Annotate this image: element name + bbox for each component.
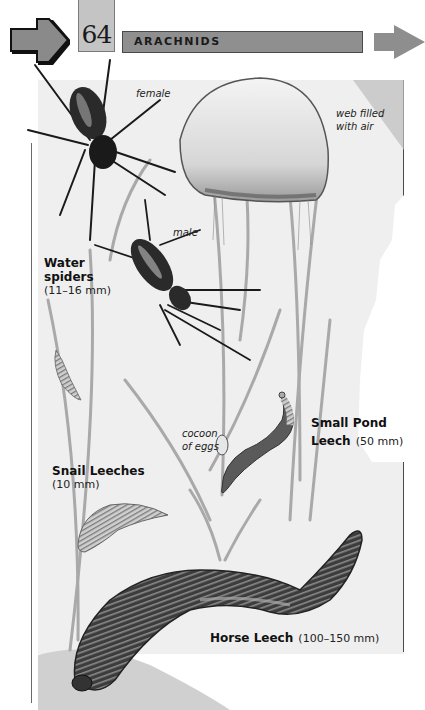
species-size: (11–16 mm) xyxy=(44,284,111,297)
species-small-pond-leech: Small Pond Leech (50 mm) xyxy=(311,416,403,449)
species-name: Snail Leeches xyxy=(52,464,145,478)
species-name: Leech xyxy=(311,434,351,448)
species-snail-leeches: Snail Leeches (10 mm) xyxy=(52,464,145,491)
label-web-line2: with air xyxy=(336,121,373,133)
species-name: Water xyxy=(44,256,111,270)
label-cocoon-line1: cocoon xyxy=(182,428,218,440)
label-cocoon-line2: of eggs xyxy=(182,441,219,453)
species-name: Horse Leech xyxy=(210,631,293,645)
species-name: Small Pond xyxy=(311,416,403,430)
label-female: female xyxy=(136,88,170,100)
species-size: (50 mm) xyxy=(356,435,404,448)
species-water-spiders: Water spiders (11–16 mm) xyxy=(44,256,111,297)
pond-life-illustration xyxy=(0,0,425,710)
species-size: (10 mm) xyxy=(52,478,145,491)
species-horse-leech: Horse Leech (100–150 mm) xyxy=(210,627,379,646)
label-web-line1: web filled xyxy=(336,108,384,120)
label-male: male xyxy=(173,227,198,239)
species-name: spiders xyxy=(44,270,111,284)
species-size: (100–150 mm) xyxy=(298,632,379,645)
